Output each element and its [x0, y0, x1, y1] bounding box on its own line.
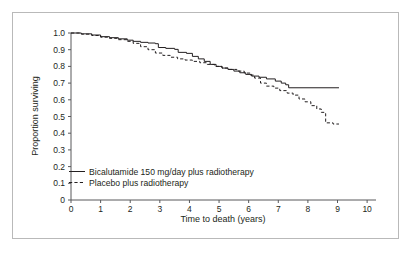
y-tick-label: 0.9	[53, 45, 65, 55]
x-axis-ticks: 012345678910	[69, 200, 372, 214]
x-tick-label: 9	[335, 204, 340, 214]
x-tick-label: 8	[306, 204, 311, 214]
y-axis-ticks: 00.10.20.30.40.50.60.70.80.91.0	[53, 28, 71, 205]
series-line-placebo	[71, 33, 339, 124]
y-axis-title: Proportion surviving	[30, 76, 40, 156]
x-tick-label: 4	[187, 204, 192, 214]
y-tick-label: 0.7	[53, 78, 65, 88]
y-tick-label: 1.0	[53, 28, 65, 38]
x-tick-label: 7	[276, 204, 281, 214]
y-tick-label: 0.3	[53, 145, 65, 155]
x-tick-label: 2	[128, 204, 133, 214]
y-tick-label: 0.6	[53, 95, 65, 105]
x-tick-label: 0	[69, 204, 74, 214]
x-axis-title: Time to death (years)	[180, 214, 265, 224]
x-tick-label: 1	[98, 204, 103, 214]
x-tick-label: 5	[217, 204, 222, 214]
series-line-bicalutamide	[71, 33, 339, 88]
y-tick-label: 0.5	[53, 112, 65, 122]
y-tick-label: 0.8	[53, 61, 65, 71]
survival-chart: 00.10.20.30.40.50.60.70.80.91.0 01234567…	[0, 0, 413, 263]
x-tick-label: 10	[362, 204, 372, 214]
legend-label-bicalutamide: Bicalutamide 150 mg/day plus radiotherap…	[89, 167, 255, 177]
chart-series	[71, 33, 339, 124]
y-tick-label: 0	[60, 195, 65, 205]
y-tick-label: 0.2	[53, 162, 65, 172]
x-tick-label: 3	[157, 204, 162, 214]
x-tick-label: 6	[246, 204, 251, 214]
y-tick-label: 0.4	[53, 128, 65, 138]
legend-label-placebo: Placebo plus radiotherapy	[89, 178, 189, 188]
chart-legend: Bicalutamide 150 mg/day plus radiotherap…	[69, 167, 255, 188]
y-tick-label: 0.1	[53, 178, 65, 188]
